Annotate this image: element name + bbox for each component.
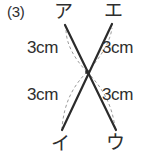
vertex-label-e: エ <box>104 1 123 20</box>
measure-label-top-right: 3cm <box>102 39 133 56</box>
measure-label-bottom-right: 3cm <box>102 86 133 103</box>
vertex-label-a: ア <box>54 2 73 21</box>
vertex-label-u: ウ <box>106 133 125 152</box>
problem-number: (3) <box>7 4 24 19</box>
measure-label-top-left: 3cm <box>27 39 58 56</box>
intersection-point <box>85 70 89 74</box>
vertex-label-i: イ <box>51 134 70 153</box>
measure-label-bottom-left: 3cm <box>27 86 58 103</box>
